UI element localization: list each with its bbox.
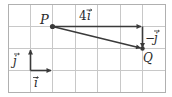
label-4i: 4 i	[79, 9, 92, 23]
vector-diagram: P Q 4 i − j j i	[0, 0, 172, 97]
svg-text:4: 4	[79, 9, 87, 23]
vector-pq	[53, 27, 141, 49]
label-j: j	[10, 53, 20, 68]
point-p	[50, 24, 55, 29]
label-i: i	[33, 76, 39, 90]
label-minus-j: − j	[145, 30, 160, 45]
svg-text:i: i	[87, 9, 91, 23]
label-p: P	[39, 12, 49, 27]
svg-text:j: j	[10, 54, 17, 68]
label-q: Q	[143, 51, 153, 65]
